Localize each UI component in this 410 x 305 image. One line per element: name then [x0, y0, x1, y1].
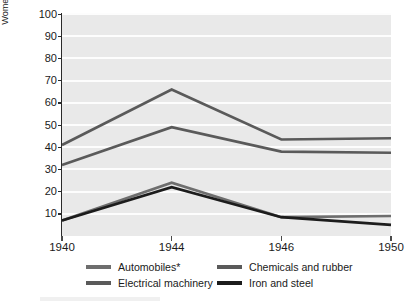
- cropped-footnote-artifact: [40, 297, 160, 301]
- legend-swatch-icon: [86, 281, 111, 284]
- legend-item-automobiles[interactable]: Automobiles*: [86, 260, 180, 274]
- legend-item-label: Electrical machinery: [118, 277, 213, 289]
- legend-item-electrical-machinery[interactable]: Electrical machinery: [86, 276, 213, 290]
- y-axis-tick-label: 90: [24, 31, 57, 42]
- series-line: [62, 187, 391, 225]
- y-axis-tick-label: 30: [24, 164, 57, 175]
- plot-area: [62, 14, 391, 236]
- series-lines: [62, 14, 391, 236]
- legend-swatch-icon: [86, 265, 111, 268]
- legend-item-chemicals-and-rubber[interactable]: Chemicals and rubber: [217, 260, 353, 274]
- x-axis-tickmark: [390, 236, 391, 241]
- series-line: [62, 89, 391, 144]
- y-axis-tick-label: 100: [24, 9, 57, 20]
- legend-item-label: Iron and steel: [249, 277, 313, 289]
- legend-item-label: Chemicals and rubber: [249, 261, 353, 273]
- y-axis-tick-labels: 100908070605040302010: [24, 0, 57, 250]
- x-axis-tick-label: 1944: [148, 241, 196, 254]
- x-axis-tickmark: [171, 236, 172, 241]
- y-axis-line: [61, 13, 62, 237]
- x-axis-tick-label: 1946: [257, 241, 305, 254]
- series-line: [62, 127, 391, 165]
- y-axis-tick-label: 70: [24, 75, 57, 86]
- x-axis-tick-label: 1950: [367, 241, 410, 254]
- y-axis-tick-label: 60: [24, 97, 57, 108]
- x-axis-tick-labels: 1940194419461950: [0, 241, 410, 257]
- chart-legend: Automobiles* Electrical machinery Chemic…: [86, 260, 386, 292]
- x-axis-tickmark: [281, 236, 282, 241]
- y-axis-tick-label: 80: [24, 53, 57, 64]
- line-chart-figure: Women as a percentage of all production …: [0, 0, 410, 305]
- x-axis-tickmark: [61, 236, 62, 241]
- y-axis-tick-label: 10: [24, 208, 57, 219]
- x-axis-tick-label: 1940: [38, 241, 86, 254]
- legend-item-iron-and-steel[interactable]: Iron and steel: [217, 276, 313, 290]
- y-axis-title: Women as a percentage of all production …: [0, 0, 14, 42]
- legend-item-label: Automobiles*: [118, 261, 180, 273]
- legend-swatch-icon: [217, 281, 242, 284]
- y-axis-tick-label: 50: [24, 120, 57, 131]
- legend-swatch-icon: [217, 265, 242, 268]
- y-axis-tick-label: 40: [24, 142, 57, 153]
- y-axis-tick-label: 20: [24, 186, 57, 197]
